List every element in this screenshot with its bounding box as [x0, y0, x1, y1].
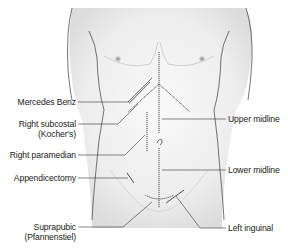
label-left-inguinal: Left inguinal	[228, 223, 273, 233]
label-appendicectomy-text: Appendicectomy	[14, 173, 76, 183]
label-appendicectomy: Appendicectomy	[14, 173, 76, 183]
label-right-subcostal-text: Right subcostal	[19, 119, 76, 129]
label-upper-midline: Upper midline	[228, 114, 280, 124]
label-lower-midline-text: Lower midline	[228, 165, 280, 175]
label-suprapubic-text2: (Pfannenstiel)	[24, 232, 76, 242]
label-left-inguinal-text: Left inguinal	[228, 223, 273, 233]
label-right-paramedian-text: Right paramedian	[10, 150, 76, 160]
label-right-subcostal-text2: (Kocher's)	[19, 129, 76, 139]
label-lower-midline: Lower midline	[228, 165, 280, 175]
label-suprapubic: Suprapubic (Pfannenstiel)	[24, 222, 76, 242]
torso	[68, 8, 253, 228]
label-upper-midline-text: Upper midline	[228, 114, 280, 124]
label-right-subcostal: Right subcostal (Kocher's)	[19, 119, 76, 139]
label-right-paramedian: Right paramedian	[10, 150, 76, 160]
label-mercedes-benz-text: Mercedes Benz	[18, 97, 76, 107]
label-suprapubic-text: Suprapubic	[24, 222, 76, 232]
nipple-right	[199, 56, 205, 62]
label-mercedes-benz: Mercedes Benz	[18, 97, 76, 107]
nipple-left	[115, 56, 121, 62]
